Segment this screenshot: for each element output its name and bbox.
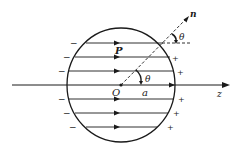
label-origin: O — [112, 87, 120, 98]
svg-text:−: − — [69, 122, 77, 132]
positive-charges: + + + + + — [167, 54, 185, 132]
label-radius: a — [142, 87, 148, 98]
svg-text:−: − — [58, 94, 66, 104]
label-angle-inner: θ — [145, 74, 151, 84]
svg-text:−: − — [63, 52, 71, 62]
svg-text:+: + — [172, 54, 179, 63]
svg-text:+: + — [173, 109, 180, 118]
svg-text:−: − — [70, 38, 78, 48]
svg-text:+: + — [177, 68, 184, 77]
label-polarization: P — [114, 45, 123, 56]
svg-text:+: + — [167, 123, 174, 132]
label-normal: n — [190, 9, 197, 19]
svg-text:+: + — [178, 95, 185, 104]
angle-arc-outer — [172, 34, 178, 44]
angle-arc-inner — [136, 70, 143, 85]
svg-text:−: − — [58, 66, 66, 76]
polarized-sphere-diagram: P O a z n θ θ − − − − − − + + + + + — [0, 0, 240, 154]
label-angle-outer: θ — [179, 32, 185, 42]
svg-text:−: − — [63, 108, 71, 118]
label-z-axis: z — [216, 89, 222, 99]
